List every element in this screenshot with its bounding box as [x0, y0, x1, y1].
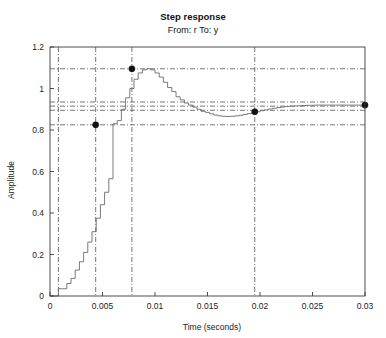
peak-marker — [129, 66, 135, 72]
y-tick-label: 0 — [39, 291, 44, 301]
y-tick-label: 1.2 — [32, 42, 44, 52]
step-response-figure: Step response From: r To: y 00.0050.010.… — [0, 0, 386, 338]
x-tick-label: 0.015 — [197, 301, 219, 311]
chart-title: Step response — [160, 11, 225, 22]
x-tick-label: 0 — [48, 301, 53, 311]
x-tick-label: 0.02 — [252, 301, 269, 311]
y-tick-label: 0.4 — [32, 208, 44, 218]
y-tick-label: 1 — [39, 84, 44, 94]
chart-subtitle: From: r To: y — [168, 25, 219, 35]
y-tick-label: 0.8 — [32, 125, 44, 135]
figure-background — [0, 0, 386, 338]
settling-time-marker — [252, 109, 258, 115]
y-tick-label: 0.2 — [32, 250, 44, 260]
x-tick-label: 0.025 — [302, 301, 324, 311]
x-tick-label: 0.005 — [92, 301, 114, 311]
y-axis-label: Amplitude — [6, 161, 16, 199]
x-tick-label: 0.03 — [357, 301, 374, 311]
x-axis-label: Time (seconds) — [183, 322, 241, 332]
x-tick-label: 0.01 — [147, 301, 164, 311]
y-tick-label: 0.6 — [32, 167, 44, 177]
rise-time-marker — [93, 122, 99, 128]
